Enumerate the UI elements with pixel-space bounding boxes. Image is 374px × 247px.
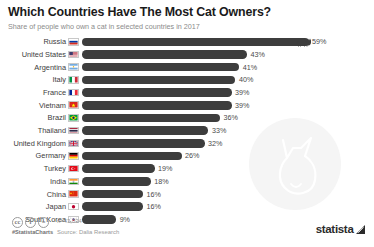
flag-united-kingdom-icon xyxy=(68,140,79,148)
cc-license-icon: cc xyxy=(12,217,23,228)
value-label: 40% xyxy=(239,75,253,84)
value-label: 33% xyxy=(212,126,226,135)
value-bar xyxy=(82,126,209,135)
bar-container: 36% xyxy=(82,112,367,124)
value-label: 16% xyxy=(147,190,161,199)
chart-row: India18% xyxy=(0,176,366,188)
country-label: United States xyxy=(0,50,68,59)
country-label: India xyxy=(0,177,68,186)
chart-row: Turkey19% xyxy=(0,163,366,175)
bar-container: 41% xyxy=(82,61,367,73)
chart-subtitle: Share of people who own a cat in selecte… xyxy=(8,22,366,32)
value-bar xyxy=(82,101,232,110)
value-bar xyxy=(82,164,155,173)
value-label: 39% xyxy=(235,101,249,110)
country-label: Turkey xyxy=(0,164,68,173)
bar-container: 39% xyxy=(82,99,367,111)
bar-container: 16% xyxy=(82,188,367,200)
chart-row: Russia59% xyxy=(0,36,366,48)
chart-row: Argentina41% xyxy=(0,61,366,73)
bar-container: 26% xyxy=(82,150,367,162)
flag-france-icon xyxy=(68,89,79,97)
value-bar xyxy=(82,50,247,59)
value-bar xyxy=(82,114,221,123)
value-bar xyxy=(82,202,144,211)
flag-thailand-icon xyxy=(68,127,79,135)
bar-container: 39% xyxy=(82,87,367,99)
bar-container: 40% xyxy=(82,74,367,86)
cc-attribution-icon: i xyxy=(25,217,36,228)
flag-china-icon xyxy=(68,190,79,198)
bar-container: 43% xyxy=(82,49,367,61)
value-label: 32% xyxy=(208,139,222,148)
flag-turkey-icon xyxy=(68,165,79,173)
flag-italy-icon xyxy=(68,76,79,84)
bar-container: 16% xyxy=(82,201,367,213)
value-bar xyxy=(82,76,236,85)
chart-row: Germany26% xyxy=(0,150,366,162)
country-label: China xyxy=(0,190,68,199)
sample-size: n=43,034 xyxy=(57,218,82,224)
bar-chart: Russia59%United States43%Argentina41%Ita… xyxy=(0,36,374,225)
chart-header: Which Countries Have The Most Cat Owners… xyxy=(0,0,374,32)
statista-logo: statista xyxy=(316,224,365,235)
creative-commons-icons: cc i = xyxy=(12,217,49,228)
value-bar xyxy=(82,63,240,72)
value-label: 41% xyxy=(243,63,257,72)
value-label: 19% xyxy=(158,164,172,173)
statista-wordmark: statista xyxy=(316,224,354,235)
chart-row: Italy40% xyxy=(0,74,366,86)
flag-united-states-icon xyxy=(68,51,79,59)
chart-row: Thailand33% xyxy=(0,125,366,137)
country-label: Vietnam xyxy=(0,101,68,110)
value-label: 39% xyxy=(235,88,249,97)
bar-container: 18% xyxy=(82,176,367,188)
bar-container: 33% xyxy=(82,125,367,137)
country-label: Germany xyxy=(0,151,68,160)
flag-india-icon xyxy=(68,178,79,186)
chart-row: Japan16% xyxy=(0,201,366,213)
chart-row: China16% xyxy=(0,188,366,200)
flag-japan-icon xyxy=(68,203,79,211)
value-bar xyxy=(82,152,182,161)
country-label: Argentina xyxy=(0,63,68,72)
chart-footer: cc i = #StatistaCharts n=43,034 Source: … xyxy=(0,215,374,247)
value-bar xyxy=(82,38,309,47)
value-label: 16% xyxy=(147,202,161,211)
flag-vietnam-icon xyxy=(68,101,79,109)
value-bar xyxy=(82,139,205,148)
chart-row: United Kingdom32% xyxy=(0,138,366,150)
flag-brazil-icon xyxy=(68,114,79,122)
statista-hashtag: #StatistaCharts xyxy=(12,229,53,235)
infographic-chart: Which Countries Have The Most Cat Owners… xyxy=(0,0,374,247)
page-title: Which Countries Have The Most Cat Owners… xyxy=(8,5,366,19)
value-label: 36% xyxy=(224,113,238,122)
flag-argentina-icon xyxy=(68,63,79,71)
country-label: France xyxy=(0,88,68,97)
cc-noderivatives-icon: = xyxy=(38,217,49,228)
value-label: 59% xyxy=(312,37,326,46)
country-label: Japan xyxy=(0,202,68,211)
value-bar xyxy=(82,88,232,97)
value-label: 43% xyxy=(250,50,264,59)
bar-container: 32% xyxy=(82,138,367,150)
country-label: Brazil xyxy=(0,113,68,122)
country-label: Thailand xyxy=(0,126,68,135)
statista-arrow-icon xyxy=(356,225,365,234)
bar-container: 19% xyxy=(82,163,367,175)
value-label: 26% xyxy=(185,151,199,160)
bar-container: 59% xyxy=(82,36,367,48)
value-bar xyxy=(82,177,151,186)
country-label: Russia xyxy=(0,37,68,46)
chart-row: Brazil36% xyxy=(0,112,366,124)
country-label: Italy xyxy=(0,75,68,84)
value-bar xyxy=(82,190,144,199)
flag-germany-icon xyxy=(68,152,79,160)
chart-row: France39% xyxy=(0,87,366,99)
value-label: 18% xyxy=(154,177,168,186)
flag-russia-icon xyxy=(68,38,79,46)
chart-row: United States43% xyxy=(0,49,366,61)
country-label: United Kingdom xyxy=(0,139,68,148)
chart-row: Vietnam39% xyxy=(0,99,366,111)
source-note: Source: Dalia Research xyxy=(57,229,119,235)
